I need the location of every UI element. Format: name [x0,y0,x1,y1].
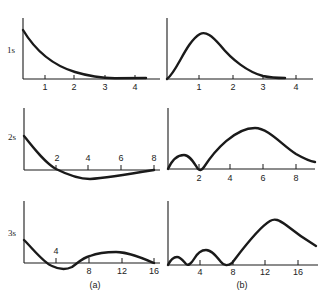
panel-3s-b: 4 8 12 16 [168,201,318,277]
panel-2s-a: 2s 2 4 6 8 [8,108,160,179]
curve-3s-wavefunction [24,240,154,269]
curve-1s-probability [167,33,285,79]
svg-text:4: 4 [197,267,202,277]
svg-text:8: 8 [151,153,156,163]
svg-text:4: 4 [227,173,232,183]
svg-text:4: 4 [132,82,137,92]
panel-2s-b: 2 4 6 8 [168,108,315,183]
x-ticks: 4 8 12 16 [53,246,159,276]
x-ticks: 2 4 6 8 [196,164,298,183]
svg-text:3: 3 [260,82,265,92]
svg-text:2: 2 [71,82,76,92]
panel-1s-a: 1s 1 2 3 4 [7,18,160,92]
svg-text:8: 8 [86,266,91,276]
orbital-figure: 1s 1 2 3 4 1 2 3 4 2s 2 4 6 8 [0,0,330,304]
panel-3s-a: 3s 4 8 12 16 [8,201,160,276]
y-label-1s: 1s [7,45,16,55]
svg-text:1: 1 [196,82,201,92]
svg-text:2: 2 [196,173,201,183]
svg-text:3: 3 [102,82,107,92]
y-label-2s: 2s [8,132,17,142]
svg-text:12: 12 [260,267,270,277]
curve-3s-probability [168,220,316,266]
svg-text:1: 1 [42,82,47,92]
curve-1s-wavefunction [23,30,146,78]
svg-text:16: 16 [149,266,159,276]
y-label-3s: 3s [8,228,17,238]
svg-text:6: 6 [118,153,123,163]
svg-text:2: 2 [230,82,235,92]
panel-1s-b: 1 2 3 4 [167,18,313,92]
caption-a: (a) [90,280,101,290]
svg-text:6: 6 [260,173,265,183]
svg-text:4: 4 [293,82,298,92]
svg-text:8: 8 [293,173,298,183]
svg-text:12: 12 [117,266,127,276]
caption-b: (b) [237,280,248,290]
x-ticks: 2 4 6 8 [54,153,156,170]
curve-2s-probability [168,128,315,170]
x-ticks: 4 8 12 16 [197,260,303,277]
svg-text:8: 8 [230,267,235,277]
svg-text:4: 4 [85,153,90,163]
svg-text:2: 2 [54,153,59,163]
svg-text:16: 16 [293,267,303,277]
svg-text:4: 4 [53,246,58,256]
